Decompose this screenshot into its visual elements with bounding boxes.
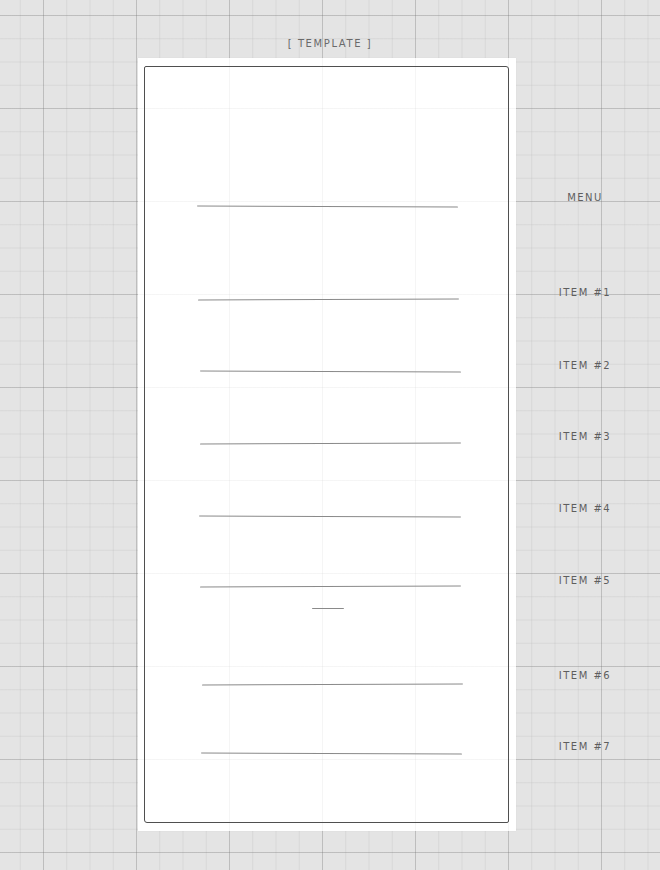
label-menu: MENU — [520, 192, 650, 203]
template-paper — [138, 58, 516, 831]
template-title: [ TEMPLATE ] — [0, 38, 660, 49]
label-item-2: ITEM #2 — [520, 360, 650, 371]
label-item-6: ITEM #6 — [520, 670, 650, 681]
label-item-7: ITEM #7 — [520, 741, 650, 752]
label-item-4: ITEM #4 — [520, 503, 650, 514]
label-item-3: ITEM #3 — [520, 431, 650, 442]
label-item-1: ITEM #1 — [520, 287, 650, 298]
label-item-5: ITEM #5 — [520, 575, 650, 586]
template-frame — [144, 66, 509, 823]
